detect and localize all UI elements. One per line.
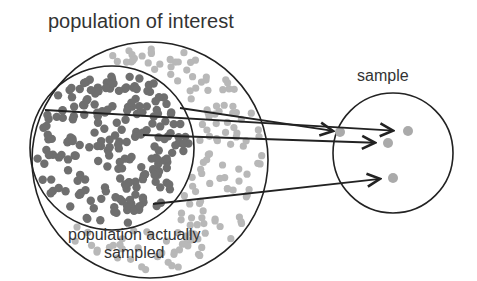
sample-label: sample [357,67,409,85]
sample-circle [333,93,453,213]
population-of-interest-label: population of interest [48,10,234,33]
population-actually-sampled-line2: sampled [68,244,201,262]
sample-dots [335,126,413,183]
population-actually-sampled-label: population actually sampled [68,226,201,262]
sampled-population-dots [33,72,192,226]
population-actually-sampled-line1: population actually [68,226,201,244]
